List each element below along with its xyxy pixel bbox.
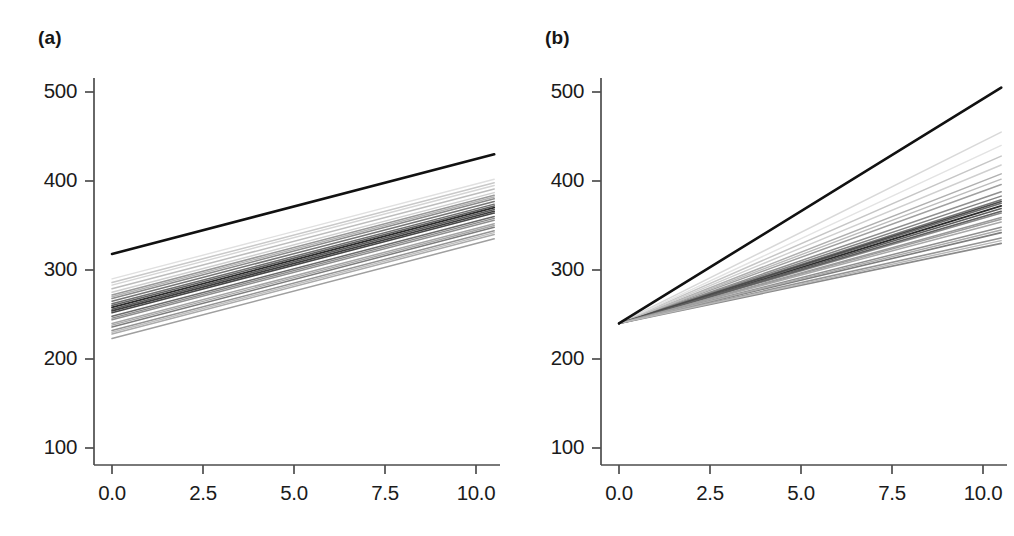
y-tick-label: 100: [13, 435, 77, 459]
group-line: [112, 208, 494, 308]
group-line: [619, 174, 1001, 324]
y-tick-label: 300: [520, 257, 584, 281]
series-group: [112, 154, 494, 338]
y-tick-label: 200: [13, 346, 77, 370]
x-tick-label: 2.5: [670, 481, 750, 505]
y-tick-label: 500: [520, 79, 584, 103]
group-line: [112, 179, 494, 279]
y-tick-label: 400: [520, 168, 584, 192]
y-tick-label: 300: [13, 257, 77, 281]
group-line: [112, 213, 494, 313]
y-tick-label: 400: [13, 168, 77, 192]
panel-a: (a) 1002003004005000.02.55.07.510.0: [0, 0, 507, 536]
x-tick-label: 2.5: [163, 481, 243, 505]
x-tick-label: 7.5: [345, 481, 425, 505]
x-tick-label: 5.0: [254, 481, 334, 505]
group-line: [619, 201, 1001, 323]
group-line: [619, 241, 1001, 324]
x-tick-label: 5.0: [761, 481, 841, 505]
group-line: [112, 201, 494, 301]
group-line: [112, 217, 494, 317]
x-tick-label: 0.0: [579, 481, 659, 505]
group-line: [112, 209, 494, 309]
x-tick-label: 7.5: [852, 481, 932, 505]
series-group: [619, 88, 1001, 324]
y-tick-label: 200: [520, 346, 584, 370]
group-line: [112, 211, 494, 311]
y-tick-label: 100: [520, 435, 584, 459]
x-tick-label: 10.0: [436, 481, 516, 505]
y-tick-label: 500: [13, 79, 77, 103]
panel-b: (b) 1002003004005000.02.55.07.510.0: [507, 0, 1014, 536]
x-tick-label: 0.0: [72, 481, 152, 505]
group-line: [112, 206, 494, 306]
group-line: [619, 156, 1001, 323]
x-tick-label: 10.0: [943, 481, 1014, 505]
group-line: [112, 226, 494, 326]
figure-canvas: (a) 1002003004005000.02.55.07.510.0 (b) …: [0, 0, 1014, 536]
